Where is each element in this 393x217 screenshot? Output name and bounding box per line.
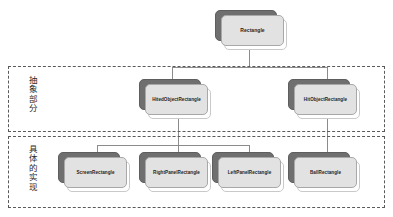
node-rectangle[interactable]: Rectangle <box>215 10 289 50</box>
node-label: LeftPanelRectangle <box>228 170 272 175</box>
node-label: BallRectangle <box>310 170 341 175</box>
node-label: ScreenRectangle <box>76 170 114 175</box>
node-front-layer: HitedObjectRectangle <box>145 84 208 115</box>
node-front-layer: Rectangle <box>221 15 284 46</box>
node-screen-rectangle[interactable]: ScreenRectangle <box>58 152 132 192</box>
node-left-panel-rectangle[interactable]: LeftPanelRectangle <box>212 152 286 192</box>
node-label: RightPanelRectangle <box>153 170 200 175</box>
node-front-layer: ScreenRectangle <box>64 157 127 188</box>
node-label: Rectangle <box>240 28 264 34</box>
node-label: HitedObjectRectangle <box>152 97 201 102</box>
node-ball-rectangle[interactable]: BallRectangle <box>288 152 362 192</box>
node-right-panel-rectangle[interactable]: RightPanelRectangle <box>139 152 213 192</box>
node-hited-object-rectangle[interactable]: HitedObjectRectangle <box>139 79 213 119</box>
node-front-layer: LeftPanelRectangle <box>218 157 281 188</box>
node-front-layer: BallRectangle <box>294 157 357 188</box>
node-front-layer: RightPanelRectangle <box>145 157 208 188</box>
group-abstract-label: 抽象部分 <box>27 76 36 114</box>
edge-root-stem <box>249 50 250 67</box>
node-front-layer: HitObjectRectangle <box>294 84 357 115</box>
group-concrete-label: 具体的实现 <box>27 145 36 192</box>
node-hit-object-rectangle[interactable]: HitObjectRectangle <box>288 79 362 119</box>
node-label: HitObjectRectangle <box>304 97 347 102</box>
diagram-canvas: 抽象部分 具体的实现 Rectangle HitedObjectRectangl… <box>0 0 393 217</box>
